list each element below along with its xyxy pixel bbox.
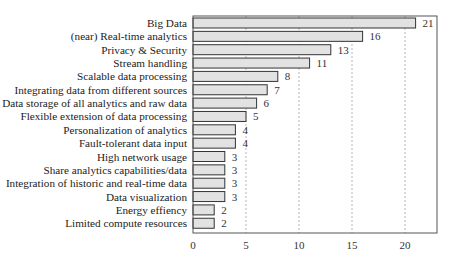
bar [193, 58, 310, 68]
value-label: 2 [221, 217, 227, 229]
category-label: Fault-tolerant data input [79, 137, 188, 149]
bar [193, 31, 363, 41]
bar [193, 71, 278, 81]
value-label: 16 [370, 30, 382, 42]
value-label: 3 [232, 164, 238, 176]
category-label: Limited compute resources [65, 217, 187, 229]
x-tick-label: 10 [294, 239, 306, 251]
value-label: 13 [338, 44, 350, 56]
x-tick-label: 15 [347, 239, 359, 251]
category-label: Data visualization [106, 191, 187, 203]
category-label: Integration of historic and real-time da… [6, 177, 187, 189]
bars [193, 18, 416, 228]
value-label: 6 [264, 97, 270, 109]
value-label: 2 [221, 204, 227, 216]
category-label: Share analytics capabilities/data [43, 164, 187, 176]
value-label: 8 [285, 70, 291, 82]
value-label: 3 [232, 177, 238, 189]
value-label: 3 [232, 191, 238, 203]
value-label: 21 [423, 17, 434, 29]
category-label: Integrating data from different sources [14, 84, 187, 96]
category-label: Personalization of analytics [63, 124, 187, 136]
value-label: 7 [274, 84, 280, 96]
category-label: High network usage [97, 151, 187, 163]
category-label: Scalable data processing [77, 70, 187, 82]
category-label: Stream handling [113, 57, 187, 69]
bar [193, 205, 214, 215]
category-labels: Big Data(near) Real-time analyticsPrivac… [2, 17, 188, 229]
bar [193, 218, 214, 228]
bar [193, 165, 225, 175]
bar [193, 98, 257, 108]
bar [193, 138, 235, 148]
category-label: Energy effiency [116, 204, 188, 216]
x-tick-label: 20 [400, 239, 412, 251]
bar [193, 45, 331, 55]
value-label: 5 [253, 110, 259, 122]
bar-chart: Big Data(near) Real-time analyticsPrivac… [0, 0, 450, 261]
bar [193, 152, 225, 162]
value-label: 11 [317, 57, 328, 69]
category-label: Privacy & Security [101, 44, 187, 56]
bar [193, 85, 267, 95]
bar [193, 192, 225, 202]
category-label: Big Data [147, 17, 187, 29]
category-label: (near) Real-time analytics [71, 30, 187, 43]
x-tick-label: 5 [243, 239, 249, 251]
x-axis-ticks: 05101520 [190, 239, 411, 251]
value-label: 4 [242, 137, 248, 149]
value-label: 4 [242, 124, 248, 136]
bar [193, 111, 246, 121]
category-label: Data storage of all analytics and raw da… [2, 97, 187, 109]
value-label: 3 [232, 151, 238, 163]
bar [193, 18, 416, 28]
x-tick-label: 0 [190, 239, 196, 251]
category-label: Flexible extension of data processing [20, 110, 187, 122]
bar [193, 125, 235, 135]
bar [193, 178, 225, 188]
